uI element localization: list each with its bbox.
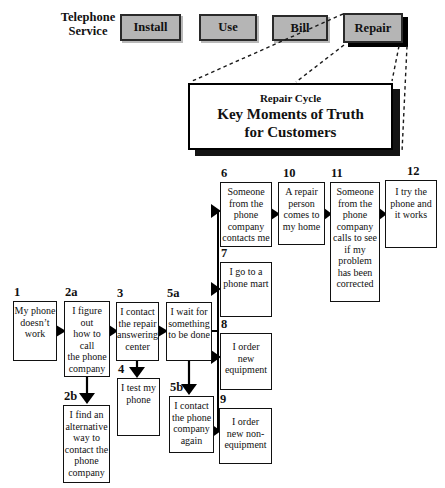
flow-node-4: 4 I test my phone <box>117 378 160 436</box>
node-number: 12 <box>407 164 420 178</box>
node-text: Someone from the phone company calls to … <box>330 182 380 302</box>
flow-node-2a: 2a I figure out how to call the phone co… <box>64 301 110 377</box>
node-text: I figure out how to call the phone compa… <box>64 301 110 377</box>
node-number: 7 <box>221 246 227 260</box>
node-text: My phone doesn’t work <box>13 301 57 361</box>
node-text: I find an alternative way to contact the… <box>63 405 110 483</box>
flow-node-11: 11 Someone from the phone company calls … <box>330 182 380 302</box>
flow-node-6: 6 Someone from the phone company contact… <box>220 182 272 247</box>
zoom-dashed-lines <box>190 14 407 152</box>
flow-node-2b: 2b I find an alternative way to contact … <box>63 405 110 483</box>
node-number: 2a <box>65 285 78 299</box>
node-number: 3 <box>117 286 123 300</box>
node-text: A repair person comes to my home <box>278 182 325 245</box>
node-text: I order new non- equipment <box>219 408 272 464</box>
flow-node-1: 1 My phone doesn’t work <box>13 301 57 361</box>
node-number: 9 <box>220 392 226 406</box>
flow-node-12: 12 I try the phone and it works <box>385 180 437 248</box>
node-text: I contact the repair answering center <box>116 302 159 361</box>
node-number: 4 <box>118 362 124 376</box>
node-text: I test my phone <box>117 378 160 436</box>
flow-node-7: 7 I go to a phone mart <box>220 262 272 317</box>
node-number: 10 <box>283 166 296 180</box>
node-text: I try the phone and it works <box>385 180 437 248</box>
node-number: 2b <box>64 389 77 403</box>
node-text: I wait for something to be done <box>166 302 212 361</box>
node-number: 5a <box>167 286 180 300</box>
node-text: I contact the phone company again <box>169 396 214 453</box>
node-text: I go to a phone mart <box>220 262 272 317</box>
node-number: 1 <box>14 285 20 299</box>
repair-cycle-diagram: Telephone Service Install Use Bill Repai… <box>0 0 445 488</box>
flow-node-8: 8 I order new equipment <box>220 333 272 390</box>
flow-node-3: 3 I contact the repair answering center <box>116 302 159 361</box>
flow-node-9: 9 I order new non- equipment <box>219 408 272 464</box>
node-number: 6 <box>221 166 227 180</box>
node-number: 8 <box>221 317 227 331</box>
node-number: 5b <box>170 380 183 394</box>
node-number: 11 <box>331 166 343 180</box>
flow-node-5a: 5a I wait for something to be done <box>166 302 212 361</box>
flow-node-5b: 5b I contact the phone company again <box>169 396 214 453</box>
flow-node-10: 10 A repair person comes to my home <box>278 182 325 245</box>
node-text: Someone from the phone company contacts … <box>220 182 272 247</box>
node-text: I order new equipment <box>220 333 272 390</box>
